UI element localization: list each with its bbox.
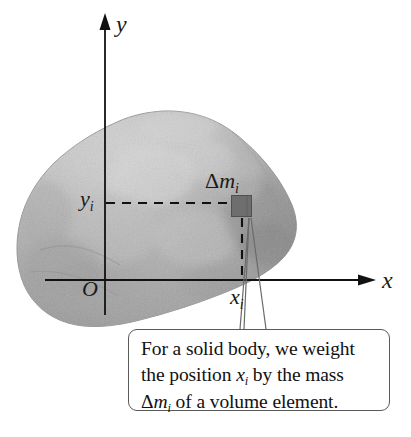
callout-line-3-m: m xyxy=(153,391,167,412)
origin-label: O xyxy=(82,278,98,300)
callout-line-3-suffix: of a volume element. xyxy=(171,391,338,412)
y-coordinate-letter: y xyxy=(80,186,90,211)
x-coordinate-label: xi xyxy=(230,286,244,311)
callout-line-1: For a solid body, we weight xyxy=(141,338,355,359)
callout-line-3-delta: Δ xyxy=(141,391,153,412)
callout-text: For a solid body, we weight the position… xyxy=(141,336,379,416)
mass-element-subscript: i xyxy=(235,180,239,196)
callout-box: For a solid body, we weight the position… xyxy=(128,329,390,411)
callout-line-2-suffix: by the mass xyxy=(248,364,344,385)
mass-element-label: Δmi xyxy=(205,170,239,195)
physics-figure-center-of-mass: y x O yi xi Δmi For a solid body, we wei… xyxy=(0,0,411,437)
y-axis-arrowhead xyxy=(100,13,111,30)
solid-body-rock xyxy=(0,90,411,340)
x-coordinate-letter: x xyxy=(230,284,240,309)
mass-element-square xyxy=(232,196,252,217)
delta-symbol: Δ xyxy=(205,168,219,193)
x-coordinate-subscript: i xyxy=(240,296,244,312)
callout-line-2-x: x xyxy=(236,364,245,385)
mass-element-letter: m xyxy=(219,168,235,193)
x-axis-label: x xyxy=(382,268,393,292)
x-axis-arrowhead xyxy=(358,275,376,286)
callout-line-2-prefix: the position xyxy=(141,364,236,385)
y-coordinate-subscript: i xyxy=(90,198,94,214)
y-coordinate-label: yi xyxy=(80,188,94,213)
y-axis-label: y xyxy=(116,12,127,36)
